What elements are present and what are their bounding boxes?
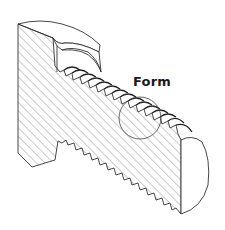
bolt-section-drawing bbox=[0, 0, 225, 230]
form-callout-label: Form bbox=[133, 74, 171, 89]
bolt-end-cap bbox=[181, 137, 209, 214]
bolt-thread-diagram: Form bbox=[0, 0, 225, 230]
